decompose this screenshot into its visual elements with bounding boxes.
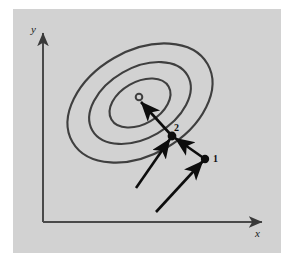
point-2-label: 2 [174,123,179,133]
step-arrow-1 [156,161,203,212]
step-arrow-3 [175,138,205,159]
step-arrow-4 [141,102,172,136]
middle-contour [75,45,205,161]
x-axis-label: x [255,228,260,239]
point-1-label: 1 [213,154,218,164]
point-1-dot [201,155,209,163]
diagram-canvas [0,0,290,263]
minimum-marker [136,94,143,101]
figure-container: y x 1 2 [0,0,290,263]
y-axis-label: y [31,24,36,35]
step-arrow-2 [136,139,170,188]
